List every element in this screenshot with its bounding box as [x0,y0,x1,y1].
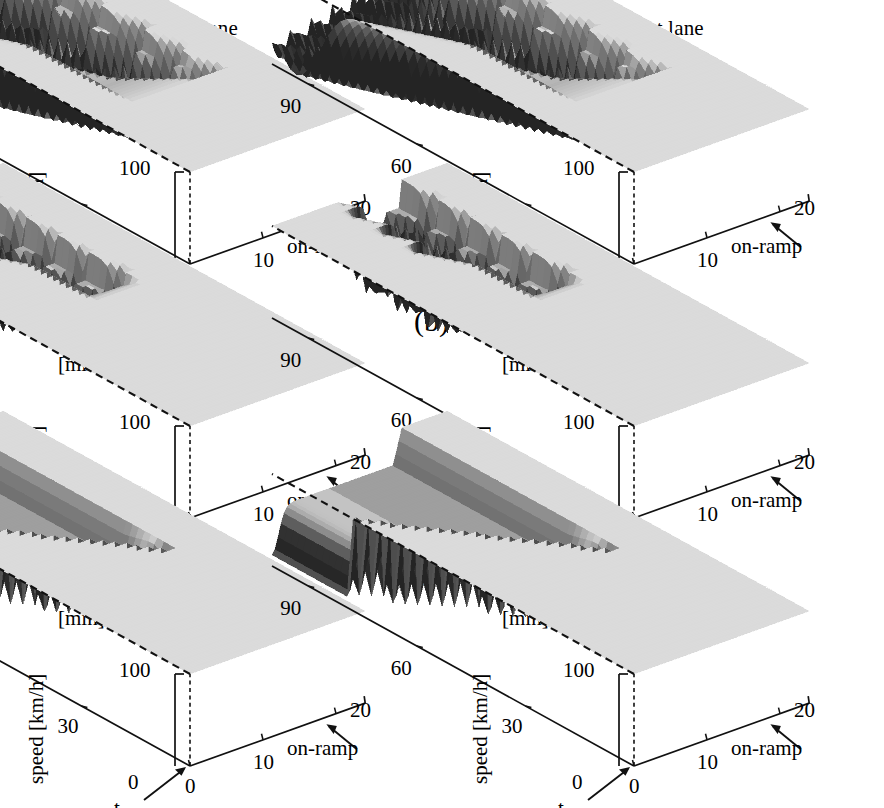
onramp-tick-10: 10 [697,250,718,271]
onramp-tick-20: 20 [794,700,815,721]
axis-label-onramp: on-ramp [731,738,802,759]
t0-marker: t0 [114,798,127,808]
time-tick-60: 60 [391,658,412,679]
z-tick-100: 100 [119,660,151,681]
figure-traffic-speed-surfaces: left lane right lane (a) (b) (c) speed [… [0,0,884,808]
time-tick-90: 90 [280,350,301,371]
onramp-tick-10: 10 [253,752,274,773]
time-tick-60: 60 [391,156,412,177]
z-tick-0: 0 [572,772,583,793]
onramp-tick-10: 10 [253,250,274,271]
axis-label-onramp: on-ramp [731,236,802,257]
time-tick-90: 90 [280,96,301,117]
time-tick-30: 30 [57,716,78,737]
time-tick-90: 90 [280,598,301,619]
axis-label-speed: speed [km/h] [24,674,49,784]
plot-c-right-lane: speed [km/h]1000t0306090time[min]01020on… [444,554,884,802]
axis-label-onramp: on-ramp [731,490,802,511]
z-tick-100: 100 [119,412,151,433]
z-tick-100: 100 [563,158,595,179]
z-tick-100: 100 [563,660,595,681]
z-tick-100: 100 [563,412,595,433]
onramp-tick-20: 20 [794,452,815,473]
onramp-tick-20: 20 [350,700,371,721]
onramp-tick-20: 20 [350,452,371,473]
plot-c-left-lane: speed [km/h]1000t0306090time[min]01020on… [0,554,442,802]
z-tick-100: 100 [119,158,151,179]
onramp-tick-10: 10 [253,504,274,525]
onramp-tick-10: 10 [697,504,718,525]
onramp-tick-20: 20 [794,198,815,219]
axis-label-speed: speed [km/h] [468,674,493,784]
onramp-tick-0: 0 [629,776,640,797]
z-tick-0: 0 [128,772,139,793]
onramp-tick-10: 10 [697,752,718,773]
time-tick-30: 30 [501,716,522,737]
axis-label-onramp: on-ramp [287,738,358,759]
onramp-tick-0: 0 [185,776,196,797]
t0-marker: t0 [558,798,571,808]
